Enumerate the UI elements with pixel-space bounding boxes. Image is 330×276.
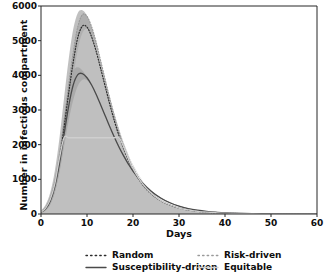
x-tick-label: 60 (302, 218, 330, 228)
x-tick-label: 50 (256, 218, 286, 228)
x-tick-label: 30 (164, 218, 194, 228)
legend-line-icon (197, 263, 219, 272)
legend-item[interactable]: Risk-driven (197, 250, 309, 260)
legend-item[interactable]: Susceptibility-driven (85, 262, 197, 272)
legend-item[interactable]: Random (85, 250, 197, 260)
legend-label: Risk-driven (224, 250, 281, 260)
series-group (41, 10, 317, 214)
x-tick-label: 20 (118, 218, 148, 228)
x-tick-label: 10 (72, 218, 102, 228)
legend-line-icon (197, 251, 219, 260)
chart-legend: RandomRisk-drivenSusceptibility-drivenEq… (85, 249, 315, 273)
x-tick-label: 40 (210, 218, 240, 228)
legend-label: Equitable (224, 262, 272, 272)
x-axis-title: Days (41, 228, 317, 239)
chart-figure: Number in infectious compartment 0100020… (0, 0, 330, 276)
legend-line-icon (85, 263, 107, 272)
legend-label: Random (112, 250, 153, 260)
legend-line-icon (85, 251, 107, 260)
area-fill (41, 14, 317, 214)
x-tick-label: 0 (26, 218, 56, 228)
legend-item[interactable]: Equitable (197, 262, 309, 272)
